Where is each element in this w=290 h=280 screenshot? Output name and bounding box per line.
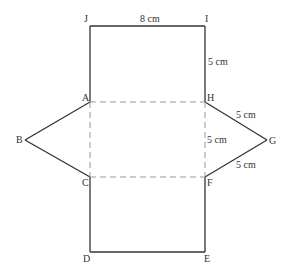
measurement-HF: 5 cm (207, 134, 227, 145)
vertex-label-B: B (16, 134, 23, 145)
vertex-label-C: C (82, 177, 89, 188)
measurement-JI: 8 cm (140, 13, 160, 24)
edge-AB (25, 102, 90, 140)
measurement-IH: 5 cm (208, 56, 228, 67)
vertex-label-D: D (83, 253, 90, 264)
vertex-label-I: I (205, 13, 208, 24)
vertex-label-A: A (82, 92, 90, 103)
fold-lines (90, 102, 205, 177)
edge-BC (25, 140, 90, 177)
solid-edges (25, 26, 267, 252)
prism-net-diagram: J I A H B G C F D E 8 cm 5 cm 5 cm 5 cm … (0, 0, 290, 280)
vertex-label-G: G (269, 135, 276, 146)
vertex-label-F: F (207, 177, 213, 188)
measurement-FG: 5 cm (236, 159, 256, 170)
vertex-label-H: H (207, 92, 214, 103)
vertex-label-J: J (84, 13, 88, 24)
vertex-label-E: E (204, 253, 210, 264)
measurement-HG: 5 cm (236, 109, 256, 120)
